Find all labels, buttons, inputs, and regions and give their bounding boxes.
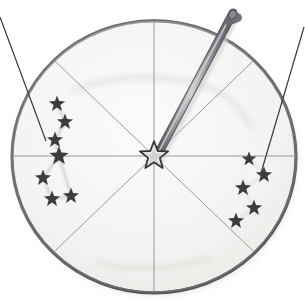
sketch-canvas: [0, 0, 305, 307]
star-disc-illustration: [0, 0, 305, 307]
